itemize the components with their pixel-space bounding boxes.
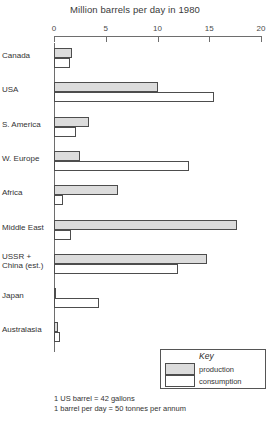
x-axis-tick-20 xyxy=(261,36,262,42)
bar-group xyxy=(54,215,261,249)
bar-group xyxy=(54,283,261,317)
bar-production xyxy=(54,288,56,298)
bar-production xyxy=(54,48,72,58)
x-axis-tick-10 xyxy=(158,36,159,42)
category-label: Middle East xyxy=(2,223,52,232)
category-label: Australasia xyxy=(2,325,52,334)
chart-title: Million barrels per day in 1980 xyxy=(0,4,270,15)
chart-root: Million barrels per day in 1980 05101520… xyxy=(0,0,270,434)
x-axis-tick-label-15: 15 xyxy=(205,24,214,33)
footnote-barrel-tonnes: 1 barrel per day = 50 tonnes per annum xyxy=(54,404,186,414)
bar-consumption xyxy=(54,127,76,137)
bar-consumption xyxy=(54,298,99,308)
category-label: W. Europe xyxy=(2,154,52,163)
bar-group xyxy=(54,43,261,77)
bar-production xyxy=(54,220,237,230)
bar-group xyxy=(54,77,261,111)
bar-consumption xyxy=(54,264,178,274)
footnotes: 1 US barrel = 42 gallons 1 barrel per da… xyxy=(54,394,186,414)
category-label: Japan xyxy=(2,291,52,300)
bar-group xyxy=(54,112,261,146)
x-axis-tick-label-5: 5 xyxy=(104,24,108,33)
x-axis-tick-15 xyxy=(209,36,210,42)
bar-production xyxy=(54,117,89,127)
bar-consumption xyxy=(54,161,189,171)
x-axis-tick-0 xyxy=(54,36,55,42)
bar-consumption xyxy=(54,195,63,205)
legend-swatch-production xyxy=(165,363,195,375)
bar-consumption xyxy=(54,92,214,102)
x-axis-tick-label-0: 0 xyxy=(52,24,56,33)
legend: Key production consumption xyxy=(160,349,266,389)
legend-swatch-consumption xyxy=(165,375,195,387)
bar-group xyxy=(54,317,261,351)
x-axis-tick-label-10: 10 xyxy=(153,24,162,33)
bar-consumption xyxy=(54,230,71,240)
category-label: S. America xyxy=(2,120,52,129)
legend-title: Key xyxy=(199,351,214,361)
bar-production xyxy=(54,185,118,195)
bar-production xyxy=(54,151,80,161)
bar-group xyxy=(54,180,261,214)
legend-label-production: production xyxy=(199,365,234,374)
legend-label-consumption: consumption xyxy=(199,377,242,386)
category-label: Africa xyxy=(2,188,52,197)
bar-consumption xyxy=(54,58,70,68)
bar-group xyxy=(54,249,261,283)
category-label: USSR +China (est.) xyxy=(2,252,52,270)
x-axis-tick-label-20: 20 xyxy=(257,24,266,33)
category-label: USA xyxy=(2,85,52,94)
plot-area xyxy=(54,43,261,352)
x-axis-tick-5 xyxy=(106,36,107,42)
bar-group xyxy=(54,146,261,180)
category-label: Canada xyxy=(2,51,52,60)
bar-production xyxy=(54,254,207,264)
footnote-barrel-gallons: 1 US barrel = 42 gallons xyxy=(54,394,186,404)
bar-consumption xyxy=(54,332,60,342)
bar-production xyxy=(54,82,158,92)
bar-production xyxy=(54,322,58,332)
